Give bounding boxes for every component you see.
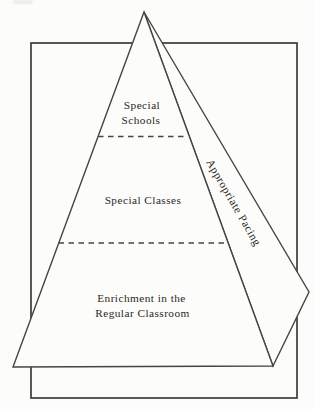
level1-label-line1: Special xyxy=(124,99,160,111)
scan-artifact xyxy=(13,0,33,4)
level3-label-line1: Enrichment in the xyxy=(97,292,186,304)
pyramid-diagram: Special Schools Special Classes Enrichme… xyxy=(0,0,315,409)
scanned-diagram-page: Special Schools Special Classes Enrichme… xyxy=(0,0,315,409)
level2-label: Special Classes xyxy=(105,194,182,206)
level3-label-line2: Regular Classroom xyxy=(95,307,190,319)
level1-label-line2: Schools xyxy=(122,114,161,126)
